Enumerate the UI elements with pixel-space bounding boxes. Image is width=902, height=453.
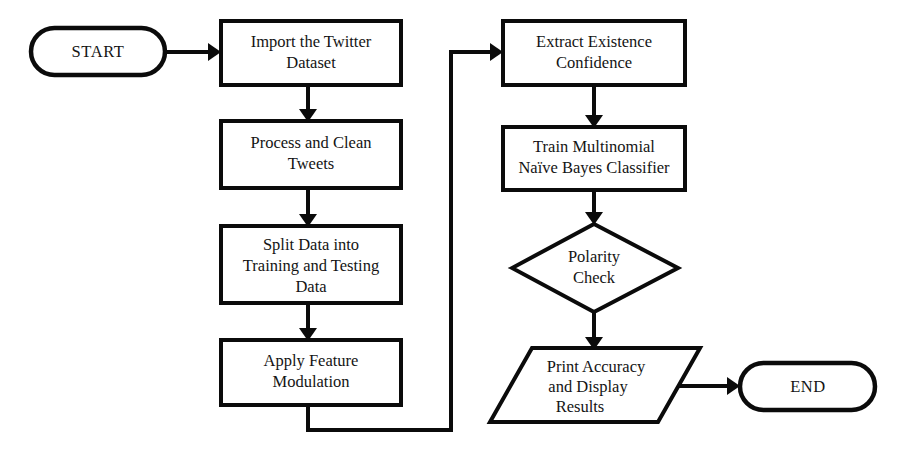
node-apply-feature[interactable]: Apply Feature Modulation: [221, 340, 401, 405]
node-split-data-label-line2: Training and Testing: [243, 256, 379, 275]
node-train-classifier-label-line1: Train Multinomial: [533, 137, 655, 156]
edge-split-to-apply: [299, 303, 317, 341]
node-extract-existence-label-line1: Extract Existence: [536, 32, 652, 51]
node-extract-existence-label-line2: Confidence: [556, 53, 632, 72]
node-polarity-check[interactable]: Polarity Check: [512, 224, 678, 312]
node-start[interactable]: START: [31, 28, 165, 75]
node-import-dataset[interactable]: Import the Twitter Dataset: [221, 21, 401, 85]
flowchart-canvas: START Import the Twitter Dataset Process…: [0, 0, 902, 453]
node-polarity-check-label-line2: Check: [573, 268, 616, 287]
node-process-clean[interactable]: Process and Clean Tweets: [221, 121, 401, 188]
node-apply-feature-label-line2: Modulation: [273, 372, 350, 391]
node-import-dataset-label-line1: Import the Twitter: [251, 32, 372, 51]
node-print-results-label-line3: Results: [556, 397, 605, 416]
node-start-label: START: [72, 42, 125, 61]
node-print-results-label-line2: and Display: [548, 377, 628, 396]
node-split-data[interactable]: Split Data into Training and Testing Dat…: [221, 226, 401, 303]
node-import-dataset-label-line2: Dataset: [286, 53, 336, 72]
node-print-results[interactable]: Print Accuracy and Display Results: [490, 348, 700, 422]
node-print-results-label-line1: Print Accuracy: [547, 357, 646, 376]
edge-print-to-end: [678, 377, 740, 395]
node-train-classifier[interactable]: Train Multinomial Naïve Bayes Classifier: [503, 127, 685, 190]
node-end-label: END: [790, 377, 826, 396]
edge-start-to-import: [166, 43, 221, 61]
node-polarity-check-label-line1: Polarity: [568, 247, 621, 266]
node-process-clean-label-line1: Process and Clean: [251, 133, 372, 152]
edge-import-to-process: [299, 85, 317, 122]
edge-train-to-polarity: [585, 190, 603, 225]
node-split-data-label-line3: Data: [295, 277, 327, 296]
node-apply-feature-label-line1: Apply Feature: [264, 351, 359, 370]
node-process-clean-label-line2: Tweets: [288, 154, 335, 173]
node-end[interactable]: END: [740, 363, 875, 410]
flowchart-svg: START Import the Twitter Dataset Process…: [0, 0, 902, 453]
edge-extract-to-train: [585, 85, 603, 128]
edge-process-to-split: [299, 188, 317, 227]
edge-polarity-to-print: [585, 312, 603, 350]
node-train-classifier-label-line2: Naïve Bayes Classifier: [518, 158, 670, 177]
node-extract-existence[interactable]: Extract Existence Confidence: [503, 21, 685, 85]
node-split-data-label-line1: Split Data into: [263, 235, 359, 254]
